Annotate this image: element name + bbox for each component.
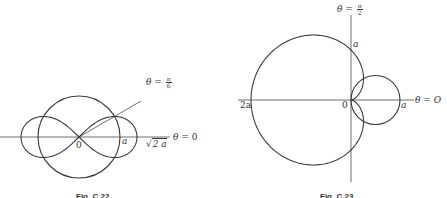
right-origin-label: 0 [342,101,348,110]
right-a-right-label: a [401,101,406,110]
theta-eq: θ = [337,4,356,14]
right-theta-zero-label: θ = O [415,96,441,105]
right-2a-label: 2a [240,101,251,110]
right-figure [238,15,414,182]
left-a-label: a [122,137,127,146]
fraction: π6 [166,76,172,89]
denominator: 6 [167,83,171,89]
diagram-canvas [0,0,447,198]
theta-eq: θ = [415,95,434,105]
theta-eq: θ = [173,132,192,142]
left-theta-zero-label: θ = 0 [173,133,197,142]
right-caption: Fig. C.23 [320,192,353,198]
left-origin-label: 0 [76,141,82,150]
theta-eq: θ = [146,77,165,87]
left-theta-pi6-label: θ = π6 [146,76,172,89]
left-sqrt2a-label: √2 a [146,140,167,149]
right-a-top-label: a [353,40,358,49]
right-theta-pi2-label: θ = π2 [337,3,363,16]
denominator: 2 [358,10,362,16]
left-caption: Fig. C.22 [76,192,109,198]
sqrt-sign: √ [146,139,152,149]
theta-value: O [434,95,441,105]
left-theta-pi6-ray [79,101,141,137]
sqrt-radicand: 2 a [152,138,167,149]
left-figure [0,96,170,178]
theta-value: 0 [192,132,198,142]
fraction: π2 [357,3,363,16]
